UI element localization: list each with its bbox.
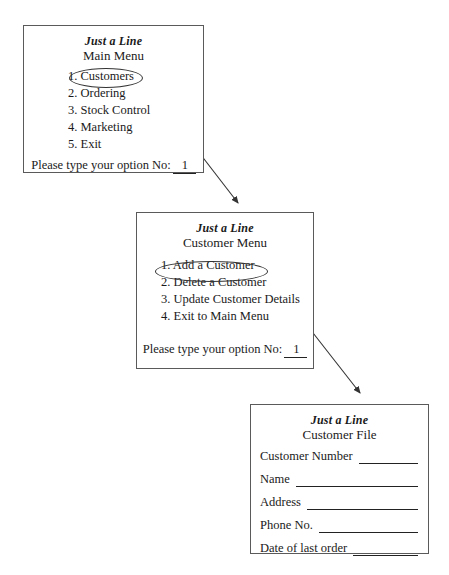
customer-file-brand: Just a Line [251, 413, 428, 427]
main-menu-item-number-2: 2. [68, 86, 77, 100]
main-menu-item-number-5: 5. [68, 137, 77, 151]
main-menu-item-label-4: Marketing [81, 120, 133, 134]
customer-menu-item-update-details[interactable]: 3. Update Customer Details [161, 291, 313, 308]
customer-menu-item-label-4: Exit to Main Menu [174, 309, 269, 323]
main-menu-screen: Just a Line Main Menu 1. Customers 2. Or… [23, 25, 204, 173]
input-address[interactable] [307, 498, 418, 510]
customer-menu-prompt-text: Please type your option No: [143, 342, 283, 356]
highlight-ellipse-add-customer [155, 261, 268, 282]
customer-file-title: Customer File [251, 427, 428, 443]
main-menu-item-label-3: Stock Control [81, 103, 151, 117]
form-row-address: Address [260, 495, 418, 510]
main-menu-item-number-4: 4. [68, 120, 77, 134]
label-name: Name [260, 472, 290, 487]
form-row-customer-number: Customer Number [260, 449, 418, 464]
label-phone-no: Phone No. [260, 518, 313, 533]
diagram-canvas: Just a Line Main Menu 1. Customers 2. Or… [0, 0, 449, 575]
main-menu-item-label-5: Exit [81, 137, 102, 151]
customer-menu-title: Customer Menu [137, 235, 313, 251]
customer-menu-option-input[interactable]: 1 [284, 341, 307, 358]
main-menu-option-input[interactable]: 1 [173, 157, 196, 174]
main-menu-item-stock-control[interactable]: 3. Stock Control [68, 102, 203, 119]
input-name[interactable] [296, 475, 418, 487]
label-date-of-last-order: Date of last order [260, 541, 347, 556]
customer-menu-brand: Just a Line [137, 221, 313, 235]
customer-menu-prompt-line: Please type your option No:1 [137, 341, 313, 358]
main-menu-title: Main Menu [24, 48, 203, 64]
form-row-phone-no: Phone No. [260, 518, 418, 533]
input-phone-no[interactable] [319, 521, 418, 533]
main-menu-prompt-line: Please type your option No:1 [24, 157, 203, 174]
customer-menu-item-label-3: Update Customer Details [174, 292, 300, 306]
customer-menu-item-exit-to-main[interactable]: 4. Exit to Main Menu [161, 308, 313, 325]
form-row-date-of-last-order: Date of last order [260, 541, 418, 556]
customer-menu-screen: Just a Line Customer Menu 1. Add a Custo… [136, 212, 314, 369]
input-customer-number[interactable] [359, 452, 418, 464]
main-menu-prompt-text: Please type your option No: [31, 158, 171, 172]
customer-menu-item-number-3: 3. [161, 292, 170, 306]
customer-file-screen: Just a Line Customer File Customer Numbe… [250, 404, 429, 554]
main-menu-item-label-2: Ordering [81, 86, 126, 100]
main-menu-item-exit[interactable]: 5. Exit [68, 136, 203, 153]
customer-menu-item-number-4: 4. [161, 309, 170, 323]
main-menu-item-marketing[interactable]: 4. Marketing [68, 119, 203, 136]
highlight-ellipse-customers [69, 68, 143, 88]
form-row-name: Name [260, 472, 418, 487]
main-menu-item-number-3: 3. [68, 103, 77, 117]
customer-file-form: Customer Number Name Address Phone No. D… [260, 449, 418, 556]
main-menu-brand: Just a Line [24, 34, 203, 48]
main-menu-item-ordering[interactable]: 2. Ordering [68, 85, 203, 102]
label-customer-number: Customer Number [260, 449, 353, 464]
label-address: Address [260, 495, 301, 510]
input-date-of-last-order[interactable] [353, 544, 418, 556]
